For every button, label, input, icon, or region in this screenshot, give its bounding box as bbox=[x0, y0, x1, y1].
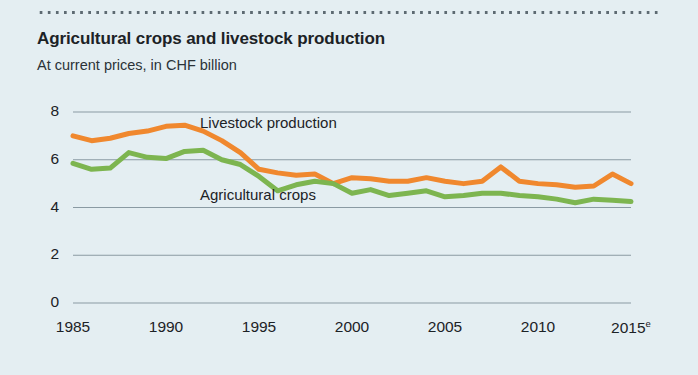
x-axis-tick-label: 1995 bbox=[242, 318, 276, 336]
y-axis-tick-label: 4 bbox=[33, 198, 59, 216]
y-axis-tick-label: 2 bbox=[33, 245, 59, 263]
series-label-livestock-production: Livestock production bbox=[200, 114, 337, 131]
y-axis-tick-label: 0 bbox=[33, 293, 59, 311]
x-axis-tick-label: 1985 bbox=[56, 318, 90, 336]
x-axis-tick-label: 1990 bbox=[149, 318, 183, 336]
x-axis-tick-label: 2005 bbox=[428, 318, 462, 336]
chart-figure: Agricultural crops and livestock product… bbox=[0, 0, 698, 375]
x-axis-tick-label: 2000 bbox=[335, 318, 369, 336]
chart-gridlines bbox=[73, 112, 631, 303]
y-axis-tick-label: 6 bbox=[33, 150, 59, 168]
chart-series-group bbox=[73, 125, 631, 203]
y-axis-tick-label: 8 bbox=[33, 102, 59, 120]
x-axis-tick-label: 2015e bbox=[611, 318, 651, 337]
series-label-agricultural-crops: Agricultural crops bbox=[200, 186, 316, 203]
x-axis-tick-label: 2010 bbox=[521, 318, 555, 336]
